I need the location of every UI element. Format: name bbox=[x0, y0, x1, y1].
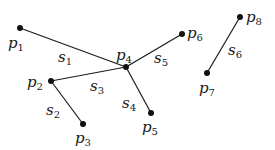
point-p7 bbox=[204, 70, 210, 76]
point-label-p8: p8 bbox=[246, 8, 262, 27]
segment-label-s5: s5 bbox=[154, 49, 168, 68]
point-p6 bbox=[179, 31, 185, 37]
point-p1 bbox=[17, 25, 23, 31]
segment-label-s2: s2 bbox=[46, 101, 60, 120]
segment-label-s6: s6 bbox=[228, 41, 242, 60]
point-label-p6: p6 bbox=[187, 24, 203, 43]
point-p5 bbox=[148, 110, 154, 116]
labels-layer: s1s2s3s4s5s6p1p2p3p4p5p6p7p8 bbox=[8, 8, 262, 148]
point-label-p7: p7 bbox=[199, 79, 215, 98]
segment-s3 bbox=[51, 67, 126, 81]
point-label-p1: p1 bbox=[8, 34, 24, 53]
point-p8 bbox=[237, 14, 243, 20]
point-label-p5: p5 bbox=[142, 118, 158, 137]
segment-s1 bbox=[20, 28, 126, 67]
point-p3 bbox=[80, 121, 86, 127]
segment-diagram: s1s2s3s4s5s6p1p2p3p4p5p6p7p8 bbox=[0, 0, 275, 150]
point-p2 bbox=[48, 78, 54, 84]
point-label-p4: p4 bbox=[116, 46, 132, 65]
segment-label-s4: s4 bbox=[122, 94, 136, 113]
segment-label-s1: s1 bbox=[58, 48, 72, 67]
point-label-p3: p3 bbox=[75, 129, 91, 148]
segment-label-s3: s3 bbox=[90, 77, 104, 96]
point-label-p2: p2 bbox=[27, 73, 43, 92]
